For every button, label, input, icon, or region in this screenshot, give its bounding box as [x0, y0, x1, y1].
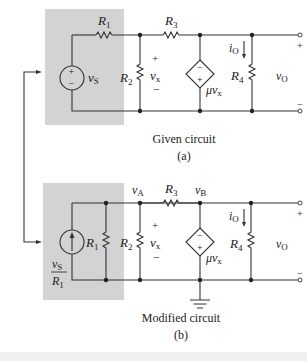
output-terminal-plus: [298, 33, 302, 37]
node-dot: [250, 109, 254, 113]
vo-plus-a: +: [297, 40, 303, 51]
vo-minus-a: −: [297, 99, 303, 110]
cropped-text-strip: [0, 352, 307, 361]
node-dot: [249, 278, 253, 282]
label-vx-a: vx: [150, 68, 161, 84]
node-dot: [138, 33, 142, 37]
vo-minus-b: −: [297, 268, 303, 279]
label-r3-a: R3: [164, 13, 178, 30]
shaded-region-a: [45, 9, 124, 125]
transformation-arrow: [24, 70, 42, 244]
caption-b: Modified circuit: [142, 311, 221, 325]
label-r2-a: R2: [119, 70, 132, 87]
label-mu-vx-b: μvx: [205, 251, 222, 266]
vo-plus-b: +: [297, 208, 303, 219]
dep-minus-b: −: [197, 230, 203, 241]
label-r4-b: R4: [229, 236, 243, 253]
node-dot: [250, 33, 254, 37]
vx-plus-b: +: [152, 219, 158, 231]
label-mu-vx-a: μvx: [205, 83, 222, 98]
node-dot: [198, 33, 202, 37]
resistor-r3-a: [140, 32, 298, 38]
label-r4-a: R4: [230, 68, 244, 85]
resistor-r4-a: [249, 35, 255, 111]
circuit-diagram: + − − + R1 R3 vS R2 + vx − μvx iO R4 vO: [0, 0, 307, 361]
vx-plus-a: +: [152, 52, 158, 64]
node-dot: [138, 109, 142, 113]
node-dot: [249, 201, 253, 205]
ground-icon: [190, 280, 210, 308]
resistor-r2-a: [137, 35, 143, 111]
caption-a: Given circuit: [153, 132, 217, 146]
circuit-a: + − − + R1 R3 vS R2 + vx − μvx iO R4 vO: [45, 9, 303, 163]
label-io-b: iO: [229, 209, 239, 224]
sublabel-a: (a): [177, 149, 190, 163]
vx-minus-a: −: [153, 83, 159, 95]
node-dot: [138, 201, 142, 205]
label-vb: vB: [195, 183, 206, 198]
vs-minus: −: [69, 78, 75, 89]
output-terminal-plus-b: [298, 201, 302, 205]
resistor-r2-b: [137, 203, 143, 280]
io-arrowhead-a: [242, 54, 246, 59]
vx-minus-b: −: [153, 251, 159, 263]
node-dot: [138, 278, 142, 282]
dep-minus: −: [197, 62, 203, 73]
label-vo-b: vO: [276, 237, 288, 252]
label-r3-b: R3: [164, 181, 178, 198]
circuit-b: − + vA vB R3 R1 R2 vS R1 + vx − μvx iO R…: [43, 181, 303, 342]
vs-plus: +: [69, 66, 75, 77]
label-io-a: iO: [229, 41, 239, 56]
resistor-r4-b: [248, 203, 254, 280]
node-dot: [104, 278, 108, 282]
node-dot: [198, 109, 202, 113]
dep-plus-b: +: [197, 242, 203, 253]
sublabel-b: (b): [174, 328, 188, 342]
label-r2-b: R2: [119, 235, 132, 252]
node-dot: [198, 278, 202, 282]
label-vx-b: vx: [150, 235, 161, 251]
node-dot: [104, 201, 108, 205]
label-va: vA: [132, 183, 144, 198]
label-vo-a: vO: [276, 69, 288, 84]
node-dot: [198, 201, 202, 205]
dep-plus: +: [197, 74, 203, 85]
